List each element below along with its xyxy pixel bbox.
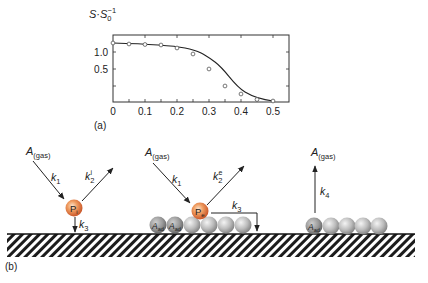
substrate-atom [323, 218, 340, 235]
k2-label: k2i [85, 169, 94, 185]
panel-b-diagram: A(gas) k1 k2i Pi k3 A(gas) k1 k2e [5, 145, 415, 272]
figure: S·S0−1 1.0 0.5 0 0.1 0.2 0.3 0.4 0.5 [0, 0, 428, 283]
x-tick-label: 0.3 [202, 106, 216, 117]
k2-label: k2e [213, 169, 222, 185]
x-tick-label: 0.5 [266, 106, 280, 117]
x-tick-label: 0.2 [170, 106, 184, 117]
x-tick-label: 0.4 [234, 106, 248, 117]
extrinsic-precursor-scheme: A(gas) k1 k2e Aad Aad Pe k3 [144, 146, 257, 234]
substrate-atom [218, 217, 235, 234]
k1-label: k1 [51, 171, 60, 186]
panel-a-label: (a) [94, 120, 106, 131]
substrate-atom [235, 217, 252, 234]
substrate-hatch [7, 234, 415, 257]
substrate-atom [201, 217, 218, 234]
substrate-atom [355, 218, 372, 235]
x-tick-label: 0 [110, 106, 116, 117]
substrate-atom [371, 218, 388, 235]
k3-label: k3 [232, 199, 241, 214]
gas-label: A(gas) [310, 146, 336, 161]
x-tick-label: 0.1 [138, 106, 152, 117]
x-ticks [113, 35, 289, 102]
panel-b-label: (b) [5, 261, 17, 272]
y-axis-label: S·S0−1 [89, 6, 116, 23]
panel-a-chart: S·S0−1 1.0 0.5 0 0.1 0.2 0.3 0.4 0.5 [89, 6, 289, 131]
intrinsic-precursor-scheme: A(gas) k1 k2i Pi k3 [25, 145, 113, 233]
gas-label: A(gas) [25, 145, 51, 160]
adsorbed-layer: Aad [306, 218, 388, 235]
gas-label: A(gas) [144, 146, 170, 161]
plot-frame [113, 35, 289, 102]
y-tick-label: 0.5 [94, 64, 108, 75]
k4-label: k4 [320, 185, 329, 200]
substrate-atom [339, 218, 356, 235]
desorption-scheme: A(gas) k4 Aad [306, 146, 388, 235]
k3-label: k3 [79, 218, 88, 233]
y-tick-label: 1.0 [94, 47, 108, 58]
